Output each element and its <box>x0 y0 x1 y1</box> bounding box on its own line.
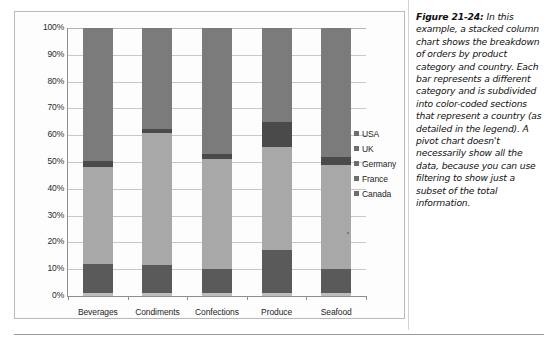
y-tick-label: 100% <box>43 23 64 32</box>
legend-item-germany[interactable]: Germany <box>354 156 406 171</box>
bar-beverages[interactable] <box>83 28 113 296</box>
bar-segment-confections-uk[interactable] <box>202 154 232 159</box>
y-tick-label: 20% <box>48 237 64 246</box>
bar-segment-produce-usa[interactable] <box>262 28 292 122</box>
y-tick-label: 60% <box>48 130 64 139</box>
x-tick-mark <box>128 296 129 300</box>
figure-number: Figure 21-24: <box>416 11 484 22</box>
bar-segment-confections-canada[interactable] <box>202 293 232 296</box>
stacked-column-chart: 100%90%80%70%60%50%40%30%20%10%0% Bevera… <box>14 11 405 319</box>
bar-segment-beverages-usa[interactable] <box>83 28 113 161</box>
legend-item-uk[interactable]: UK <box>354 141 406 156</box>
legend-swatch-icon <box>354 161 359 166</box>
bar-segment-confections-germany[interactable] <box>202 159 232 269</box>
legend-swatch-icon <box>354 146 359 151</box>
page-footer-rule <box>14 334 544 335</box>
legend-label: Canada <box>362 189 391 199</box>
bar-segment-condiments-uk[interactable] <box>142 129 172 133</box>
x-tick-mark <box>366 296 367 300</box>
legend-item-canada[interactable]: Canada <box>354 186 406 201</box>
bar-segment-produce-uk[interactable] <box>262 122 292 147</box>
bar-segment-seafood-uk[interactable] <box>321 157 351 165</box>
chart-legend: USAUKGermanyFranceCanada <box>354 126 406 201</box>
legend-label: Germany <box>362 159 396 169</box>
bar-segment-produce-canada[interactable] <box>262 293 292 296</box>
bar-segment-condiments-france[interactable] <box>142 265 172 293</box>
x-tick-label-produce: Produce <box>247 307 307 317</box>
y-tick-label: 0% <box>52 291 64 300</box>
bar-segment-condiments-germany[interactable] <box>142 133 172 266</box>
bar-segment-produce-france[interactable] <box>262 250 292 293</box>
bar-segment-produce-germany[interactable] <box>262 147 292 250</box>
bar-seafood[interactable] <box>321 28 351 296</box>
y-tick-label: 70% <box>48 103 64 112</box>
x-tick-mark <box>247 296 248 300</box>
column-divider <box>408 0 409 330</box>
bar-segment-confections-usa[interactable] <box>202 28 232 154</box>
bar-confections[interactable] <box>202 28 232 296</box>
bar-segment-beverages-uk[interactable] <box>83 161 113 168</box>
bar-segment-beverages-canada[interactable] <box>83 293 113 296</box>
bar-segment-confections-france[interactable] <box>202 269 232 293</box>
bar-segment-seafood-usa[interactable] <box>321 28 351 157</box>
legend-label: France <box>362 174 388 184</box>
plot-area <box>68 28 366 296</box>
legend-swatch-icon <box>354 131 359 136</box>
legend-swatch-icon <box>354 191 359 196</box>
x-tick-label-seafood: Seafood <box>306 307 366 317</box>
x-tick-mark <box>187 296 188 300</box>
bar-segment-seafood-germany[interactable] <box>321 165 351 270</box>
legend-item-france[interactable]: France <box>354 171 406 186</box>
legend-item-usa[interactable]: USA <box>354 126 406 141</box>
x-tick-mark <box>306 296 307 300</box>
y-tick-label: 50% <box>48 157 64 166</box>
x-tick-label-confections: Confections <box>187 307 247 317</box>
x-axis: BeveragesCondimentsConfectionsProduceSea… <box>68 301 366 321</box>
bar-segment-beverages-france[interactable] <box>83 264 113 293</box>
figure-caption-text: In this example, a stacked column chart … <box>416 11 541 208</box>
bar-condiments[interactable] <box>142 28 172 296</box>
x-tick-mark <box>68 296 69 300</box>
legend-label: USA <box>362 129 379 139</box>
y-axis: 100%90%80%70%60%50%40%30%20%10%0% <box>28 28 64 296</box>
bar-segment-seafood-canada[interactable] <box>321 293 351 296</box>
x-tick-label-beverages: Beverages <box>68 307 128 317</box>
y-tick-label: 80% <box>48 77 64 86</box>
legend-label: UK <box>362 144 374 154</box>
legend-swatch-icon <box>354 176 359 181</box>
y-tick-label: 10% <box>48 264 64 273</box>
bar-segment-seafood-france[interactable] <box>321 269 351 293</box>
y-tick-label: 40% <box>48 184 64 193</box>
bar-segment-beverages-germany[interactable] <box>83 167 113 263</box>
page-speck <box>347 232 349 234</box>
bar-produce[interactable] <box>262 28 292 296</box>
y-tick-label: 90% <box>48 50 64 59</box>
x-axis-line <box>67 296 367 297</box>
y-tick-label: 30% <box>48 211 64 220</box>
figure-page: 100%90%80%70%60%50%40%30%20%10%0% Bevera… <box>0 0 557 348</box>
bar-segment-condiments-canada[interactable] <box>142 293 172 296</box>
x-tick-label-condiments: Condiments <box>128 307 188 317</box>
figure-caption: Figure 21-24: In this example, a stacked… <box>416 11 546 319</box>
bar-segment-condiments-usa[interactable] <box>142 28 172 129</box>
